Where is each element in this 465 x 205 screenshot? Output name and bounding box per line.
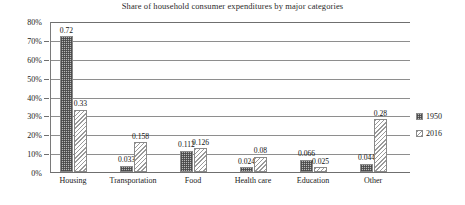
y-axis-tick-mark — [44, 98, 49, 99]
bar-1950-housing[interactable] — [60, 36, 73, 172]
bar-value-label: 0.33 — [74, 99, 87, 108]
bar-value-label: 0.158 — [132, 132, 149, 141]
y-axis: 0%10%20%30%40%50%60%70%80% — [0, 22, 46, 173]
y-axis-tick-mark — [44, 154, 49, 155]
bar-2016-transportation[interactable] — [134, 142, 147, 172]
bar-2016-health-care[interactable] — [254, 157, 267, 172]
x-axis-category-label: Education — [297, 176, 329, 185]
y-axis-tick-label: 50% — [27, 74, 42, 83]
x-axis: HousingTransportationFoodHealth careEduc… — [50, 176, 410, 192]
y-axis-tick-mark — [44, 41, 49, 42]
y-axis-tick-label: 10% — [27, 150, 42, 159]
y-axis-tick-mark — [44, 79, 49, 80]
legend-item-1950[interactable]: 1950 — [416, 110, 465, 123]
y-axis-tick-label: 30% — [27, 112, 42, 121]
bar-group: 0.1120.126 — [171, 22, 231, 172]
bar-value-label: 0.024 — [238, 157, 255, 166]
y-axis-tick-mark — [44, 135, 49, 136]
bar-value-label: 0.08 — [254, 146, 267, 155]
plot-area: 0.720.330.0330.1580.1120.1260.0240.080.0… — [50, 22, 410, 173]
bar-value-label: 0.28 — [374, 109, 387, 118]
bar-group: 0.0330.158 — [111, 22, 171, 172]
chart-title: Share of household consumer expenditures… — [0, 1, 465, 11]
bar-value-label: 0.033 — [118, 155, 135, 164]
bar-value-label: 0.025 — [312, 157, 329, 166]
bar-group: 0.0660.025 — [291, 22, 351, 172]
legend-label-1950: 1950 — [426, 112, 442, 121]
legend-item-2016[interactable]: 2016 — [416, 127, 465, 140]
bar-1950-food[interactable] — [180, 151, 193, 172]
legend-label-2016: 2016 — [426, 129, 442, 138]
bar-group: 0.720.33 — [51, 22, 111, 172]
x-axis-category-label: Transportation — [110, 176, 157, 185]
x-axis-category-label: Health care — [235, 176, 272, 185]
legend-swatch-1950-icon — [416, 113, 423, 120]
x-axis-category-label: Food — [185, 176, 201, 185]
bar-1950-other[interactable] — [360, 164, 373, 172]
bar-group: 0.0440.28 — [351, 22, 411, 172]
bar-value-label: 0.72 — [60, 26, 73, 35]
y-axis-tick-label: 80% — [27, 18, 42, 27]
chart-legend: 1950 2016 — [416, 110, 465, 144]
y-axis-tick-label: 40% — [27, 93, 42, 102]
y-axis-tick-mark — [44, 60, 49, 61]
bar-2016-education[interactable] — [314, 167, 327, 172]
x-axis-category-label: Other — [364, 176, 382, 185]
y-axis-tick-label: 60% — [27, 55, 42, 64]
bar-1950-health-care[interactable] — [240, 167, 253, 172]
y-axis-tick-label: 70% — [27, 36, 42, 45]
x-axis-category-label: Housing — [59, 176, 86, 185]
bar-2016-other[interactable] — [374, 119, 387, 172]
y-axis-tick-label: 0% — [31, 169, 42, 178]
bar-value-label: 0.126 — [192, 138, 209, 147]
y-axis-tick-mark — [44, 116, 49, 117]
bar-chart: Share of household consumer expenditures… — [0, 0, 465, 205]
y-axis-tick-label: 20% — [27, 131, 42, 140]
bar-value-label: 0.044 — [358, 153, 375, 162]
bar-group: 0.0240.08 — [231, 22, 291, 172]
bar-1950-transportation[interactable] — [120, 166, 133, 172]
bar-2016-housing[interactable] — [74, 110, 87, 172]
legend-swatch-2016-icon — [416, 130, 423, 137]
bar-2016-food[interactable] — [194, 148, 207, 172]
